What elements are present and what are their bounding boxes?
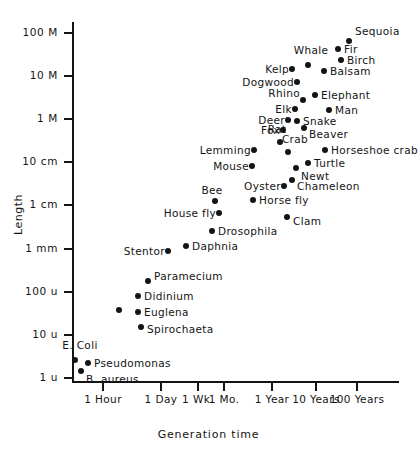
data-point [135, 293, 141, 299]
y-tick-mark [64, 118, 72, 120]
data-point [116, 307, 122, 313]
data-point-label: Mouse [213, 161, 249, 172]
data-point [294, 79, 300, 85]
y-tick-mark [64, 248, 72, 250]
data-point [293, 165, 299, 171]
data-point [292, 106, 298, 112]
y-tick-label: 100 u [0, 286, 58, 297]
y-tick-mark [64, 75, 72, 77]
y-tick-label: 10 M [0, 70, 58, 81]
data-point-label: Bee [201, 185, 222, 196]
data-point [335, 46, 341, 52]
x-tick-mark [356, 383, 358, 391]
y-tick-label: 100 M [0, 27, 58, 38]
data-point [321, 68, 327, 74]
y-tick-label: 10 cm [0, 156, 58, 167]
data-point [85, 360, 91, 366]
data-point [300, 97, 306, 103]
x-axis-title: Generation time [0, 428, 417, 441]
y-tick-label: 1 M [0, 113, 58, 124]
y-tick-label: 1 u [0, 372, 58, 383]
data-point [285, 149, 291, 155]
y-tick-mark [64, 291, 72, 293]
data-point [284, 214, 290, 220]
data-point-label: Chameleon [297, 181, 360, 192]
data-point [183, 243, 189, 249]
data-point-label: B. aureus [86, 374, 139, 385]
data-point-label: Turtle [314, 158, 345, 169]
data-point-label: Euglena [144, 307, 189, 318]
x-tick-mark [197, 383, 199, 391]
y-tick-mark [64, 161, 72, 163]
data-point-label: House fly [164, 208, 216, 219]
data-point [322, 147, 328, 153]
data-point-label: Beaver [309, 129, 348, 140]
data-point [312, 92, 318, 98]
data-point [212, 198, 218, 204]
x-tick-mark [160, 383, 162, 391]
data-point-label: Spirochaeta [147, 324, 213, 335]
data-point-label: Sequoia [355, 26, 400, 37]
data-point-label: Elephant [321, 90, 370, 101]
data-point [289, 177, 295, 183]
data-point [305, 160, 311, 166]
data-point [145, 278, 151, 284]
data-point [249, 163, 255, 169]
data-point [326, 107, 332, 113]
data-point [338, 57, 344, 63]
data-point [135, 309, 141, 315]
data-point-label: Balsam [330, 66, 371, 77]
data-point-label: Horseshoe crab [331, 145, 418, 156]
data-point-label: Kelp [265, 64, 289, 75]
y-axis-line [72, 22, 74, 383]
y-tick-label: 1 cm [0, 199, 58, 210]
data-point-label: Lemming [200, 145, 251, 156]
data-point-label: Stentor [124, 246, 165, 257]
data-point-label: Daphnia [192, 241, 238, 252]
data-point [281, 183, 287, 189]
data-point-label: Clam [293, 216, 321, 227]
data-point-label: Didinium [144, 291, 194, 302]
y-tick-label: 10 u [0, 329, 58, 340]
data-point [289, 66, 295, 72]
data-point [78, 368, 84, 374]
data-point [138, 324, 144, 330]
data-point-label: Rhino [268, 88, 300, 99]
data-point-label: Man [335, 105, 358, 116]
y-tick-label: 1 mm [0, 243, 58, 254]
data-point [216, 210, 222, 216]
data-point-label: Pseudomonas [94, 358, 171, 369]
data-point-label: Crab [282, 134, 308, 145]
data-point [305, 62, 311, 68]
data-point [250, 197, 256, 203]
data-point [294, 118, 300, 124]
x-tick-label: 100 Years [317, 394, 397, 405]
data-point [72, 357, 78, 363]
y-tick-mark [64, 204, 72, 206]
data-point [165, 248, 171, 254]
y-tick-mark [64, 334, 72, 336]
data-point [301, 125, 307, 131]
x-tick-mark [223, 383, 225, 391]
data-point-label: E. Coli [62, 340, 97, 351]
x-tick-mark [315, 383, 317, 391]
data-point-label: Paramecium [154, 271, 223, 282]
data-point [209, 228, 215, 234]
data-point-label: Oyster [244, 181, 281, 192]
y-tick-mark [64, 377, 72, 379]
data-point-label: Snake [303, 116, 337, 127]
x-tick-mark [271, 383, 273, 391]
y-tick-mark [64, 32, 72, 34]
data-point-label: Whale [294, 45, 329, 56]
data-point [251, 147, 257, 153]
data-point-label: Horse fly [259, 195, 309, 206]
data-point-label: Drosophila [218, 226, 278, 237]
y-axis-title: Length [12, 185, 25, 245]
